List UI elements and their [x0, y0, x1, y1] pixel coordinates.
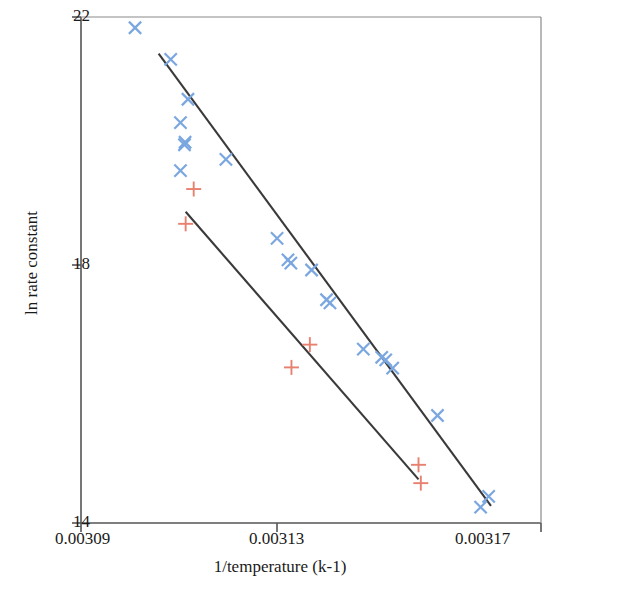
chart-page: 22 18 14 0.00309 0.00313 0.00317 1/tempe…	[0, 0, 623, 590]
plot-canvas	[0, 0, 623, 590]
data-point-x	[324, 297, 336, 309]
data-point-x	[271, 232, 283, 244]
data-point-x	[174, 117, 186, 129]
trendline-series-1	[159, 54, 491, 506]
data-point-plus	[413, 476, 428, 491]
series-series-2	[178, 182, 428, 491]
trendline-series-2	[186, 212, 419, 480]
data-point-x	[431, 409, 443, 421]
x-axis-tick-label-max: 0.00317	[455, 529, 510, 549]
data-point-x	[305, 264, 317, 276]
trendlines-group	[159, 54, 491, 506]
data-point-x	[220, 153, 232, 165]
y-axis-tick-label-22: 22	[73, 6, 90, 26]
scatter-chart-figure: 22 18 14 0.00309 0.00313 0.00317 1/tempe…	[0, 0, 623, 590]
series-series-1	[129, 22, 495, 514]
data-point-x	[129, 22, 141, 34]
x-axis-tick-label-mid: 0.00313	[249, 529, 304, 549]
x-axis-title: 1/temperature (k-1)	[0, 557, 560, 577]
data-point-x	[285, 257, 297, 269]
y-axis-title: ln rate constant	[22, 153, 42, 373]
data-point-plus	[186, 182, 201, 197]
y-axis-tick-label-18: 18	[73, 254, 90, 274]
data-point-x	[174, 165, 186, 177]
data-point-x	[475, 501, 487, 513]
data-point-x	[165, 53, 177, 65]
data-point-x	[357, 343, 369, 355]
data-point-plus	[284, 360, 299, 375]
data-series-group	[129, 22, 495, 514]
data-point-plus	[411, 457, 426, 472]
x-axis-tick-label-min: 0.00309	[55, 529, 110, 549]
